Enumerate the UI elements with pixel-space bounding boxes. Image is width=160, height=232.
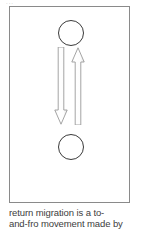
figure-page: ... [0,0,160,232]
figure-caption: return migration is a to- and-fro moveme… [9,207,155,229]
origin-node-circle [58,20,84,46]
caption-line-2: and-fro movement made by [9,218,155,229]
return-migration-arrow-up [71,47,85,125]
outward-migration-arrow-down [54,47,68,125]
clipped-text-artifact: ... [6,0,20,4]
caption-line-1: return migration is a to- [9,207,155,218]
destination-node-circle [58,134,84,160]
diagram-frame [9,6,130,203]
